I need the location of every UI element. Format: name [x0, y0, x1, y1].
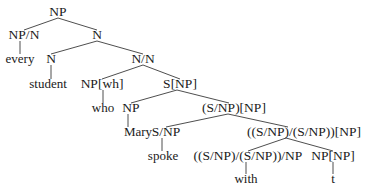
tree-node-category: S/NP — [152, 126, 181, 138]
tree-node-category: NP — [49, 6, 66, 18]
tree-leaf-word: Mary — [124, 126, 152, 138]
tree-node-category: ((S/NP)/(S/NP))[NP] — [247, 126, 361, 138]
tree-node-category: S[NP] — [163, 78, 197, 90]
tree-leaf-word: with — [234, 173, 257, 185]
tree-node-category: N — [92, 29, 102, 41]
tree-node-category: NP[wh] — [81, 78, 124, 90]
tree-leaf-word: spoke — [148, 150, 178, 162]
tree-node-category: NP — [122, 102, 139, 114]
tree-node-category: N — [46, 53, 56, 65]
tree-leaf-word: t — [331, 173, 335, 185]
tree-leaf-word: student — [29, 78, 67, 90]
tree-node-category: (S/NP)[NP] — [202, 102, 266, 114]
tree-edge — [51, 41, 97, 54]
tree-node-category: ((S/NP)/(S/NP))/NP — [194, 150, 303, 162]
tree-node-category: NP[NP] — [311, 150, 355, 162]
tree-leaf-word: who — [92, 102, 114, 114]
tree-node-category: N/N — [131, 53, 154, 65]
tree-leaf-word: every — [6, 53, 35, 65]
tree-node-category: NP/N — [9, 29, 40, 41]
syntax-tree-diagram: NPNP/NeveryNNstudentN/NNP[wh]whoS[NP]NPM… — [0, 0, 367, 186]
